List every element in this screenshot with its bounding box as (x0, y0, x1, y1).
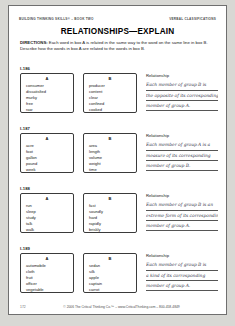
box-a-word-list: automobile cloth fruit officer vegetable (21, 263, 73, 293)
answer-lines[interactable]: Each member of group A is a measure of i… (146, 140, 218, 171)
list-item: raw (26, 107, 73, 113)
exercise-number: I-186 (20, 66, 218, 71)
exercise-body: A run sleep study talk walk B fast sound… (20, 193, 218, 233)
exercise-i-188: I-188 A run sleep study talk walk B fast… (20, 186, 218, 233)
answer-line[interactable]: Each member of group B is (146, 260, 218, 270)
relationship-label: Relationship (146, 193, 218, 198)
box-a-word-list: run sleep study talk walk (21, 203, 73, 233)
running-head: Building Thinking Skills® – Book Two Ver… (19, 15, 216, 22)
box-b-word-list: fast soundly hard rapidly briskly (84, 203, 136, 233)
exercise-number: I-189 (20, 246, 218, 251)
box-a-label: A (21, 256, 73, 261)
page-number: 172 (20, 305, 50, 309)
exercise-body: A consumer dissatisfied murky free raw B… (20, 73, 218, 113)
answer-lines[interactable]: Each member of group B is a kind of its … (146, 260, 218, 291)
word-box-b: B sedan silk apple captain carrot (83, 253, 137, 293)
page-footer: 172 © 2006 The Critical Thinking Co.™ – … (20, 305, 215, 309)
answer-line[interactable]: Each member of group B is (146, 80, 218, 90)
list-item: week (26, 167, 73, 173)
exercise-number: I-188 (20, 186, 218, 191)
answer-line[interactable]: Each member of group B is an (146, 200, 218, 210)
page-title: RELATIONSHIPS—EXPLAIN (9, 27, 226, 36)
word-box-a: A run sleep study talk walk (20, 193, 74, 233)
box-a-word-list: acre foot gallon pound week (21, 143, 73, 173)
answer-line[interactable]: member of group A. (146, 101, 218, 111)
list-item: vegetable (26, 287, 73, 293)
box-a-word-list: consumer dissatisfied murky free raw (21, 83, 73, 113)
exercise-body: A automobile cloth fruit officer vegetab… (20, 253, 218, 293)
word-box-a: A consumer dissatisfied murky free raw (20, 73, 74, 113)
exercise-i-189: I-189 A automobile cloth fruit officer v… (20, 246, 218, 293)
box-b-word-list: sedan silk apple captain carrot (84, 263, 136, 293)
list-item: time (89, 167, 136, 173)
list-item: briskly (89, 227, 136, 233)
exercise-body: A acre foot gallon pound week B area len… (20, 133, 218, 173)
word-box-b: B fast soundly hard rapidly briskly (83, 193, 137, 233)
box-b-word-list: area length volume weight time (84, 143, 136, 173)
relationship-label: Relationship (146, 253, 218, 258)
exercise-i-187: I-187 A acre foot gallon pound week B ar… (20, 126, 218, 173)
exercise-i-186: I-186 A consumer dissatisfied murky free… (20, 66, 218, 113)
exercise-number: I-187 (20, 126, 218, 131)
list-item: carrot (89, 287, 136, 293)
answer-line[interactable]: measure of its corresponding (146, 151, 218, 161)
box-b-label: B (84, 256, 136, 261)
relationship-area: Relationship Each member of group A is a… (146, 133, 218, 171)
box-b-label: B (84, 196, 136, 201)
word-box-a: A acre foot gallon pound week (20, 133, 74, 173)
copyright-notice: © 2006 The Critical Thinking Co.™ – www.… (50, 305, 215, 309)
answer-line[interactable]: Each member of group A is a (146, 140, 218, 150)
word-box-b: B area length volume weight time (83, 133, 137, 173)
answer-lines[interactable]: Each member of group B is an extreme for… (146, 200, 218, 231)
answer-line[interactable]: member of group A. (146, 281, 218, 291)
relationship-area: Relationship Each member of group B is t… (146, 73, 218, 111)
directions-label: DIRECTIONS: (20, 40, 48, 45)
word-box-a: A automobile cloth fruit officer vegetab… (20, 253, 74, 293)
relationship-label: Relationship (146, 73, 218, 78)
relationship-label: Relationship (146, 133, 218, 138)
answer-lines[interactable]: Each member of group B is the opposite o… (146, 80, 218, 111)
box-a-label: A (21, 76, 73, 81)
running-head-left: Building Thinking Skills® – Book Two (19, 17, 94, 21)
relationship-area: Relationship Each member of group B is a… (146, 193, 218, 231)
relationship-area: Relationship Each member of group B is a… (146, 253, 218, 291)
directions-text: Each word in box A is related in the sam… (20, 40, 208, 51)
worksheet-page: Building Thinking Skills® – Book Two Ver… (8, 5, 227, 315)
running-head-right: Verbal Classifications (169, 17, 216, 21)
answer-line[interactable]: member of group A. (146, 221, 218, 231)
box-a-label: A (21, 196, 73, 201)
answer-line[interactable]: the opposite of its corresponding (146, 91, 218, 101)
list-item: walk (26, 227, 73, 233)
word-box-b: B producer content clear confined cooked (83, 73, 137, 113)
box-b-label: B (84, 136, 136, 141)
box-a-label: A (21, 136, 73, 141)
box-b-label: B (84, 76, 136, 81)
directions: DIRECTIONS: Each word in box A is relate… (20, 40, 215, 52)
box-b-word-list: producer content clear confined cooked (84, 83, 136, 113)
answer-line[interactable]: a kind of its corresponding (146, 271, 218, 281)
answer-line[interactable]: extreme form of its corresponding (146, 211, 218, 221)
answer-line[interactable]: member of group B. (146, 161, 218, 171)
list-item: cooked (89, 107, 136, 113)
